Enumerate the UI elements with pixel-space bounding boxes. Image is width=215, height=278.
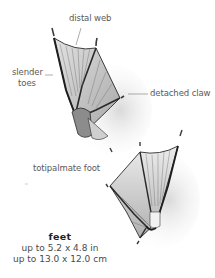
caption-size-cm: up to 13.0 x 12.0 cm <box>0 254 120 266</box>
label-detached-claw: detached claw <box>150 88 210 99</box>
label-slender-toes: slender toes <box>12 67 42 88</box>
size-caption: feet up to 5.2 x 4.8 in up to 13.0 x 12.… <box>0 231 120 266</box>
distal-web-leader <box>76 28 81 45</box>
label-slender-line1: slender <box>12 67 42 78</box>
caption-title: feet <box>0 231 120 243</box>
label-totipalmate-foot: totipalmate foot <box>33 163 100 174</box>
label-slender-line2: toes <box>12 78 42 89</box>
label-distal-web: distal web <box>69 13 111 24</box>
upper-foot <box>52 28 152 155</box>
caption-size-in: up to 5.2 x 4.8 in <box>0 243 120 255</box>
